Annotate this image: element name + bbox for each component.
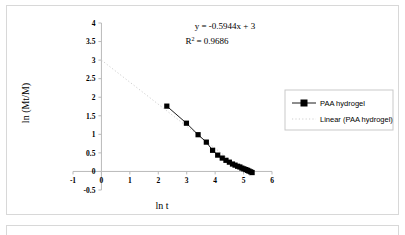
chart-plot-area: -10123456-0.500.511.522.533.54 y = -0.59…: [7, 6, 400, 216]
screenshot-root: -10123456-0.500.511.522.533.54 y = -0.59…: [0, 0, 405, 235]
x-tick-label: 1: [128, 176, 132, 185]
data-point-marker: [195, 132, 200, 137]
x-tick-label: 4: [213, 176, 217, 185]
x-axis-title: ln t: [155, 200, 168, 211]
x-tick-label: 3: [185, 176, 189, 185]
y-tick-label: 0: [92, 167, 96, 176]
data-point-marker: [250, 170, 255, 175]
trendline-series: [101, 60, 252, 177]
x-tick-label: 5: [242, 176, 246, 185]
series-connector-line: [167, 106, 252, 172]
y-tick-label: 1: [92, 130, 96, 139]
chart-panel: -10123456-0.500.511.522.533.54 y = -0.59…: [6, 5, 399, 215]
data-point-marker: [204, 140, 209, 145]
y-tick-label: 2.5: [86, 74, 96, 83]
legend-label-trendline: Linear (PAA hydrogel): [320, 115, 393, 124]
trendline-path: [101, 60, 252, 177]
r-squared-exponent: 2: [191, 36, 194, 42]
legend-square-icon: [301, 100, 308, 107]
y-tick-label: -0.5: [84, 186, 96, 195]
lower-empty-panel: [6, 225, 399, 235]
r-squared-value: = 0.9686: [196, 36, 229, 46]
x-tick-label: -1: [70, 176, 76, 185]
y-axis-title: ln (Mt/M): [20, 83, 32, 123]
data-point-marker: [210, 148, 215, 153]
y-tick-label: 3: [92, 56, 96, 65]
y-tick-label: 3.5: [86, 37, 96, 46]
data-series-paa-hydrogel: [164, 104, 254, 176]
legend-border: [285, 90, 393, 130]
y-tick-label: 0.5: [86, 149, 96, 158]
y-tick-label: 1.5: [86, 112, 96, 121]
y-tick-label: 4: [92, 19, 96, 28]
x-tick-label: 6: [270, 176, 274, 185]
y-tick-label: 2: [92, 93, 96, 102]
x-tick-label: 0: [100, 176, 104, 185]
data-point-marker: [215, 153, 220, 158]
x-tick-label: 2: [156, 176, 160, 185]
legend-label-series: PAA hydrogel: [320, 99, 365, 108]
chart-legend: PAA hydrogel Linear (PAA hydrogel): [285, 90, 393, 130]
equation-annotation: y = -0.5944x + 3: [195, 21, 256, 31]
data-point-marker: [184, 121, 189, 126]
data-point-marker: [164, 104, 169, 109]
r-squared-annotation: R2= 0.9686: [185, 36, 229, 47]
